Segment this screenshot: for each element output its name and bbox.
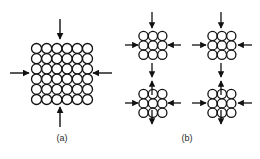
cluster-bottom-left-atom: [139, 108, 148, 117]
cluster-top-left-atom: [158, 50, 167, 59]
grid-a-atom: [52, 95, 62, 105]
grid-a-atom: [62, 74, 72, 84]
cluster-bottom-right-atom: [208, 89, 217, 98]
grid-a-atom: [83, 54, 93, 64]
cluster-top-left-atom: [148, 50, 157, 59]
panel-b-label: (b): [182, 133, 193, 143]
grid-a-atom: [62, 44, 72, 54]
cluster-top-left-atom: [139, 41, 148, 50]
cluster-top-left: [139, 31, 167, 59]
cluster-bottom-right-atom: [217, 99, 226, 108]
grid-a-atom: [62, 84, 72, 94]
cluster-bottom-right-atom: [217, 108, 226, 117]
cluster-top-left-atom: [158, 31, 167, 40]
grid-a-atom: [72, 44, 82, 54]
grid-a-atom: [72, 54, 82, 64]
cluster-top-left-atom: [139, 50, 148, 59]
grid-a-atom: [42, 84, 52, 94]
cluster-top-left-atom: [148, 31, 157, 40]
cluster-top-right-atom: [208, 41, 217, 50]
grid-a-atom: [52, 74, 62, 84]
grid-a-atom: [32, 54, 42, 64]
grid-a-atom: [42, 74, 52, 84]
grid-a-atom: [32, 95, 42, 105]
grid-a-atom: [62, 64, 72, 74]
cluster-bottom-left-atom: [148, 108, 157, 117]
grid-a-atom: [52, 84, 62, 94]
cluster-top-right-atom: [217, 50, 226, 59]
panel-a-label: (a): [57, 133, 68, 143]
grid-a-atom: [83, 95, 93, 105]
grid-a-atom: [72, 84, 82, 94]
cluster-bottom-right-atom: [227, 108, 236, 117]
diagram-svg: (a): [0, 0, 260, 159]
grid-a-atom: [72, 64, 82, 74]
cluster-bottom-left-atom: [148, 89, 157, 98]
cluster-bottom-right-atom: [227, 99, 236, 108]
grid-a-atom: [62, 95, 72, 105]
grid-a-atom: [52, 44, 62, 54]
cluster-bottom-left-atom: [158, 89, 167, 98]
cluster-top-right-atom: [217, 41, 226, 50]
cluster-top-right-atom: [227, 50, 236, 59]
grid-a-atom: [83, 74, 93, 84]
cluster-bottom-left-atom: [158, 108, 167, 117]
grid-a-atom: [32, 74, 42, 84]
grid-a-atom: [62, 54, 72, 64]
grid-a-atom: [83, 64, 93, 74]
grid-a-atom: [32, 64, 42, 74]
cluster-bottom-left-atom: [139, 99, 148, 108]
grid-a-atom: [42, 64, 52, 74]
cluster-top-right-atom: [227, 31, 236, 40]
cluster-bottom-left-atom: [139, 89, 148, 98]
grid-a-atom: [83, 44, 93, 54]
cluster-bottom-right-atom: [208, 108, 217, 117]
cluster-top-right: [208, 31, 236, 59]
grid-a-atom: [42, 44, 52, 54]
cluster-bottom-right-atom: [227, 89, 236, 98]
cluster-top-right-atom: [208, 50, 217, 59]
grid-a-atom: [83, 84, 93, 94]
cluster-bottom-right-atom: [208, 99, 217, 108]
cluster-bottom-left: [139, 89, 167, 117]
grid-a-atom: [42, 54, 52, 64]
cluster-bottom-right: [208, 89, 236, 117]
cluster-top-left-atom: [139, 31, 148, 40]
cluster-top-left-atom: [148, 41, 157, 50]
grid-a-atom: [32, 44, 42, 54]
grid-a-atom: [52, 54, 62, 64]
grid-a-atom: [72, 74, 82, 84]
cluster-top-right-atom: [208, 31, 217, 40]
figure-container: (a): [0, 0, 260, 159]
cluster-top-left-atom: [158, 41, 167, 50]
cluster-bottom-left-atom: [148, 99, 157, 108]
cluster-bottom-left-atom: [158, 99, 167, 108]
grid-a-atom: [32, 84, 42, 94]
cluster-bottom-right-atom: [217, 89, 226, 98]
grid-a-atom: [42, 95, 52, 105]
cluster-top-right-atom: [227, 41, 236, 50]
grid-a-atom: [72, 95, 82, 105]
cluster-top-right-atom: [217, 31, 226, 40]
grid-a-atom: [52, 64, 62, 74]
